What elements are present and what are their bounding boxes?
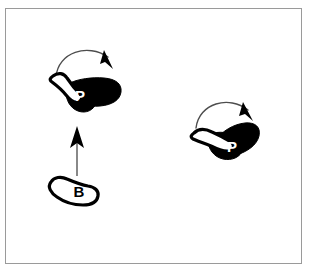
- object-b-bottom-label: B: [74, 183, 85, 200]
- rotation-arrow-left: [56, 50, 113, 77]
- figure-artwork: P B P: [0, 0, 312, 277]
- figure-canvas: P B P: [0, 0, 312, 277]
- object-p-right: P: [191, 123, 259, 160]
- object-p-left: P: [50, 74, 121, 112]
- object-b-bottom: B: [49, 177, 98, 205]
- translation-arrow: [70, 126, 84, 176]
- object-p-right-label: P: [227, 138, 237, 155]
- rotation-arrow-right-head: [239, 102, 253, 121]
- object-p-left-label: P: [75, 87, 85, 104]
